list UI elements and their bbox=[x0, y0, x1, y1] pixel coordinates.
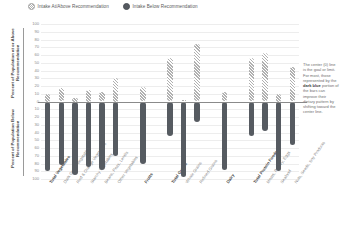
bar-below-recommendation bbox=[72, 102, 77, 176]
y-axis-tick: 90 bbox=[27, 169, 39, 173]
y-axis-tick: 20 bbox=[27, 84, 39, 88]
bar-below-recommendation bbox=[140, 102, 145, 165]
bar-below-recommendation bbox=[113, 102, 118, 156]
bar-below-recommendation bbox=[45, 102, 50, 172]
bar-at-above-recommendation bbox=[113, 78, 118, 101]
bar-below-recommendation bbox=[194, 102, 199, 122]
bar-below-recommendation bbox=[99, 102, 104, 170]
bar-at-above-recommendation bbox=[262, 53, 267, 101]
y-axis-tick: 40 bbox=[27, 130, 39, 134]
y-axis-tick: 100 bbox=[27, 177, 39, 181]
y-axis-tick: 80 bbox=[27, 161, 39, 165]
bar-at-above-recommendation bbox=[99, 92, 104, 101]
bar-at-above-recommendation bbox=[45, 94, 50, 102]
bar-below-recommendation bbox=[262, 102, 267, 131]
bar-below-recommendation bbox=[222, 102, 227, 170]
chart-annotation: The center (0) line is the goal or limit… bbox=[303, 62, 339, 115]
bar-at-above-recommendation bbox=[86, 90, 91, 102]
axis-divider bbox=[23, 28, 24, 176]
bar-at-above-recommendation bbox=[59, 88, 64, 102]
y-axis-tick: 10 bbox=[27, 107, 39, 111]
y-axis-tick: 70 bbox=[27, 154, 39, 158]
y-axis-title-upper: Percent of Population at or Above Recomm… bbox=[11, 27, 21, 99]
plot-area: 1009080706050403020100102030405060708090… bbox=[41, 24, 299, 179]
bar-below-recommendation bbox=[290, 102, 295, 145]
bar-at-above-recommendation bbox=[167, 58, 172, 101]
y-axis-tick: 70 bbox=[27, 45, 39, 49]
y-axis-tick: 90 bbox=[27, 30, 39, 34]
bar-below-recommendation bbox=[59, 102, 64, 166]
y-axis-tick: 80 bbox=[27, 37, 39, 41]
note-text: The center (0) line is the goal or limit… bbox=[303, 62, 339, 114]
y-axis-tick: 30 bbox=[27, 123, 39, 127]
y-axis-tick: 60 bbox=[27, 146, 39, 150]
bar-at-above-recommendation bbox=[290, 67, 295, 101]
legend-item-below: Intake Below Recommendation bbox=[123, 3, 198, 10]
y-axis-tick: 30 bbox=[27, 76, 39, 80]
y-axis-tick: 40 bbox=[27, 68, 39, 72]
bar-below-recommendation bbox=[249, 102, 254, 136]
bar-below-recommendation bbox=[86, 102, 91, 168]
circle-hatched-icon bbox=[28, 3, 35, 10]
bar-below-recommendation bbox=[181, 102, 186, 178]
note-emphasis: dark blue bbox=[303, 83, 321, 88]
bar-below-recommendation bbox=[276, 102, 281, 172]
y-axis-tick: 100 bbox=[27, 22, 39, 26]
circle-solid-icon bbox=[123, 3, 130, 10]
y-axis-tick: 60 bbox=[27, 53, 39, 57]
bar-at-above-recommendation bbox=[222, 92, 227, 101]
bar-at-above-recommendation bbox=[194, 44, 199, 101]
bar-at-above-recommendation bbox=[276, 94, 281, 102]
legend-label-below: Intake Below Recommendation bbox=[132, 4, 197, 9]
bar-at-above-recommendation bbox=[140, 87, 145, 102]
zero-reference-line bbox=[38, 102, 307, 103]
bar-below-recommendation bbox=[167, 102, 172, 136]
legend-item-at-above: Intake At/Above Recommendation bbox=[28, 3, 109, 10]
y-axis-tick: 50 bbox=[27, 61, 39, 65]
y-axis-tick: 50 bbox=[27, 138, 39, 142]
legend-label-at-above: Intake At/Above Recommendation bbox=[38, 4, 109, 9]
y-axis-title-lower: Percent of Population Below Recommendati… bbox=[11, 103, 21, 175]
bar-at-above-recommendation bbox=[249, 58, 254, 101]
chart-container: Intake At/Above Recommendation Intake Be… bbox=[0, 0, 345, 232]
y-axis-tick: 10 bbox=[27, 92, 39, 96]
y-axis-tick: 20 bbox=[27, 115, 39, 119]
chart-legend: Intake At/Above Recommendation Intake Be… bbox=[28, 3, 198, 10]
